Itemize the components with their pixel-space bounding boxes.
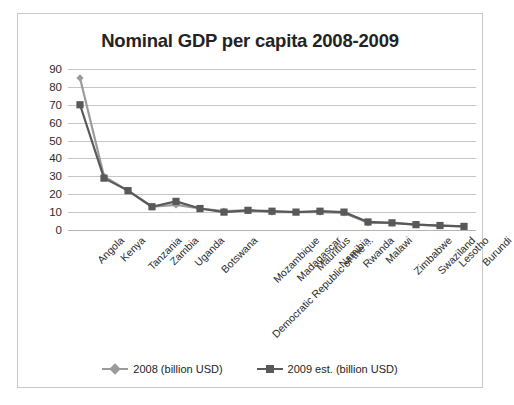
data-point-1-11[interactable] [340,209,347,216]
data-point-1-3[interactable] [148,203,155,210]
y-tick-90: 90 [49,63,62,75]
y-tick-10: 10 [49,206,62,218]
legend-item-2008[interactable]: 2008 (billion USD) [102,363,222,375]
y-tick-80: 80 [49,81,62,93]
data-point-1-2[interactable] [124,187,131,194]
data-point-1-1[interactable] [100,175,107,182]
square-marker-icon [257,363,283,375]
y-tick-40: 40 [49,152,62,164]
plot-area: 0102030405060708090 [68,69,476,230]
data-point-1-16[interactable] [460,223,467,230]
data-point-1-10[interactable] [316,208,323,215]
data-point-1-9[interactable] [292,209,299,216]
legend-label-2009: 2009 est. (billion USD) [288,363,398,375]
legend-label-2008: 2008 (billion USD) [133,363,222,375]
chart-frame: Nominal GDP per capita 2008-2009 0102030… [17,13,483,388]
y-tick-20: 20 [49,188,62,200]
data-point-1-4[interactable] [172,198,179,205]
data-point-1-8[interactable] [268,208,275,215]
series-line-0 [80,78,464,226]
series-lines [68,69,476,230]
y-tick-70: 70 [49,99,62,111]
y-tick-30: 30 [49,170,62,182]
chart-title: Nominal GDP per capita 2008-2009 [18,30,482,52]
data-point-1-15[interactable] [436,222,443,229]
y-tick-50: 50 [49,135,62,147]
data-point-1-14[interactable] [412,221,419,228]
x-axis-line [68,230,476,231]
data-point-0-0[interactable] [76,74,83,81]
chart-legend: 2008 (billion USD) 2009 est. (billion US… [18,363,482,375]
y-tick-60: 60 [49,117,62,129]
data-point-1-7[interactable] [244,207,251,214]
legend-item-2009[interactable]: 2009 est. (billion USD) [257,363,398,375]
data-point-1-0[interactable] [76,101,83,108]
diamond-marker-icon [102,363,128,375]
data-point-1-13[interactable] [388,219,395,226]
data-point-1-6[interactable] [220,209,227,216]
data-point-1-5[interactable] [196,205,203,212]
data-point-1-12[interactable] [364,218,371,225]
y-tick-0: 0 [56,224,62,236]
